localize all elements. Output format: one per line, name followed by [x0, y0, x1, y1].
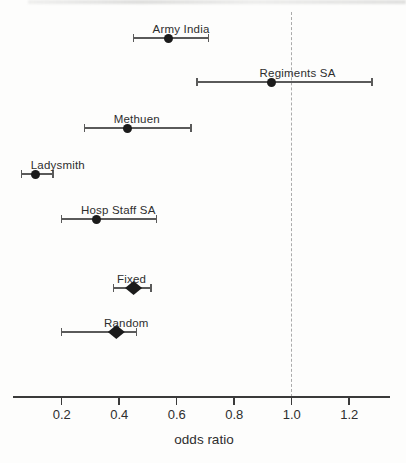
- study-label-random: Random: [104, 317, 149, 329]
- ci-cap: [113, 284, 115, 292]
- study-label-hosp-staff-sa: Hosp Staff SA: [81, 204, 156, 216]
- ci-cap: [84, 124, 86, 132]
- ci-cap: [133, 34, 135, 42]
- axis-tick-label: 1.0: [283, 407, 301, 422]
- study-label-army-india: Army India: [153, 23, 210, 35]
- point-marker: [164, 34, 173, 43]
- x-axis-title: odds ratio: [174, 432, 233, 447]
- axis-tick: [233, 398, 235, 405]
- ci-cap: [21, 170, 23, 178]
- point-marker: [92, 215, 101, 224]
- axis-tick-label: 0.6: [168, 407, 186, 422]
- ci-line: [197, 81, 372, 83]
- ci-cap: [371, 78, 373, 86]
- point-marker: [31, 170, 40, 179]
- axis-tick: [118, 398, 120, 405]
- axis-tick: [61, 398, 63, 405]
- ci-cap: [61, 215, 63, 223]
- forest-plot: Army IndiaRegiments SAMethuenLadysmithHo…: [0, 0, 406, 463]
- axis-tick-label: 0.8: [225, 407, 243, 422]
- ci-line: [62, 218, 157, 220]
- axis-tick-label: 1.2: [340, 407, 358, 422]
- ci-cap: [208, 34, 210, 42]
- axis-tick: [291, 398, 293, 405]
- point-marker: [123, 124, 132, 133]
- axis-tick-label: 0.2: [53, 407, 71, 422]
- axis-tick: [348, 398, 350, 405]
- point-marker: [267, 78, 276, 87]
- axis-tick-label: 0.4: [110, 407, 128, 422]
- ci-line: [85, 127, 191, 129]
- ci-cap: [196, 78, 198, 86]
- axis-tick: [176, 398, 178, 405]
- study-label-fixed: Fixed: [117, 273, 146, 285]
- x-axis-line: [13, 396, 390, 398]
- ci-cap: [136, 328, 138, 336]
- ci-line: [62, 331, 137, 333]
- ci-cap: [150, 284, 152, 292]
- study-label-methuen: Methuen: [114, 113, 160, 125]
- ci-cap: [52, 170, 54, 178]
- ci-cap: [156, 215, 158, 223]
- study-label-regiments-sa: Regiments SA: [260, 67, 336, 79]
- study-label-ladysmith: Ladysmith: [31, 159, 85, 171]
- ci-cap: [61, 328, 63, 336]
- ci-cap: [190, 124, 192, 132]
- scan-artifact: [28, 0, 406, 4]
